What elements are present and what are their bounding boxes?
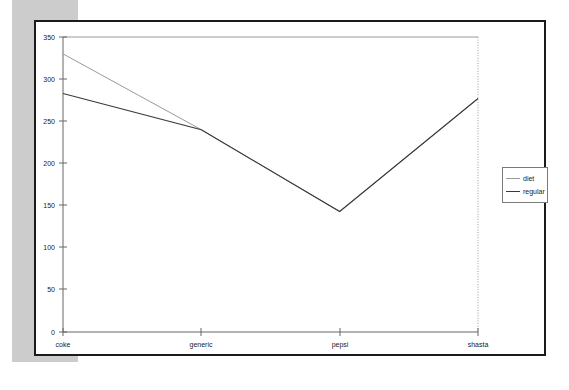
chart-legend: diet regular bbox=[502, 167, 548, 203]
plot-frame bbox=[63, 37, 478, 332]
y-tick-label: 100 bbox=[43, 244, 55, 251]
chart-svg: 350 300 250 200 150 100 50 0 bbox=[36, 22, 548, 358]
line-chart: 350 300 250 200 150 100 50 0 bbox=[36, 22, 548, 358]
legend-swatch-icon bbox=[506, 178, 520, 179]
y-tick-label: 300 bbox=[43, 76, 55, 83]
y-tick-label: 150 bbox=[43, 202, 55, 209]
y-tick-label: 200 bbox=[43, 160, 55, 167]
chart-card: 350 300 250 200 150 100 50 0 bbox=[34, 20, 546, 356]
y-tick-label: 250 bbox=[43, 118, 55, 125]
series-line-diet bbox=[63, 54, 478, 212]
x-tick-label: generic bbox=[190, 341, 213, 349]
legend-item-diet: diet bbox=[506, 172, 544, 185]
legend-label: regular bbox=[523, 187, 545, 196]
legend-item-regular: regular bbox=[506, 185, 544, 198]
x-tick-label: coke bbox=[56, 341, 71, 348]
legend-swatch-icon bbox=[506, 191, 520, 192]
x-tick-label: shasta bbox=[468, 341, 489, 348]
y-tick-label: 0 bbox=[51, 329, 55, 336]
y-tick-label: 350 bbox=[43, 34, 55, 41]
y-tick-label: 50 bbox=[47, 286, 55, 293]
x-tick-labels: coke generic pepsi shasta bbox=[56, 341, 489, 349]
series-line-regular bbox=[63, 93, 478, 211]
legend-label: diet bbox=[523, 174, 534, 183]
scanned-page: 350 300 250 200 150 100 50 0 bbox=[0, 0, 569, 390]
x-tick-label: pepsi bbox=[332, 341, 349, 349]
y-tick-labels: 350 300 250 200 150 100 50 0 bbox=[43, 34, 55, 336]
